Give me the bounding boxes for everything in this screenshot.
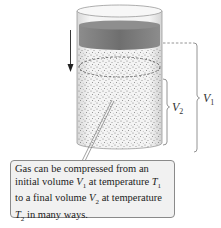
compression-arrow-icon (68, 30, 74, 72)
v2-label: V2 (172, 101, 183, 116)
callout-box: Gas can be compressed from an initial vo… (10, 160, 175, 218)
callout-line-2: initial volume V1 at temperature T1 (15, 176, 170, 193)
v2-bracket (163, 79, 170, 145)
callout-line-4: T2 in many ways. (15, 209, 170, 226)
callout-line-1: Gas can be compressed from an (15, 163, 170, 176)
v1-label: V1 (203, 92, 214, 107)
gas-region (78, 46, 161, 149)
callout-line-3: to a final volume V2 at temperature (15, 192, 170, 209)
piston (79, 21, 160, 51)
v1-bracket (163, 43, 200, 152)
